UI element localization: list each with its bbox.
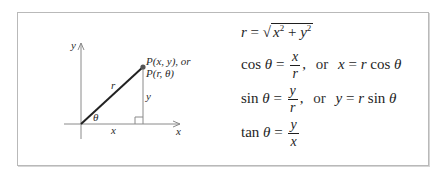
or-text: or xyxy=(316,56,329,72)
horizontal-leg-label: x xyxy=(110,124,116,136)
exponent: 2 xyxy=(307,23,312,33)
formula-sin: sin θ = y r , or y = r sin θ xyxy=(241,84,396,115)
fraction-y-over-r: y r xyxy=(288,84,298,115)
formula-cos: cos θ = x r , or x = r cos θ xyxy=(241,50,401,81)
radius-line xyxy=(81,67,143,124)
point-p xyxy=(140,64,145,69)
equals: = xyxy=(348,56,356,72)
numerator: x xyxy=(290,50,300,64)
formula-tan: tan θ = y x xyxy=(241,118,301,149)
theta: θ xyxy=(263,124,270,140)
x-term: x xyxy=(273,24,280,40)
denominator: r xyxy=(290,67,300,81)
tan-fn: tan xyxy=(241,124,259,140)
cos-fn: cos xyxy=(370,56,390,72)
y-term: y xyxy=(300,24,307,40)
right-angle-marker xyxy=(135,117,143,124)
r-var: r xyxy=(241,24,247,40)
y-axis-label: y xyxy=(70,39,76,51)
plus: + xyxy=(288,24,296,40)
fraction-x-over-r: x r xyxy=(290,50,300,81)
denominator: x xyxy=(288,135,298,149)
sin-fn: sin xyxy=(368,90,386,106)
theta: θ xyxy=(389,90,396,106)
numerator: y xyxy=(288,84,298,98)
theta: θ xyxy=(262,90,269,106)
vertical-leg-label: y xyxy=(145,90,151,102)
denominator: r xyxy=(288,101,298,115)
x-var: x xyxy=(338,56,345,72)
angle-theta-label: θ xyxy=(93,111,99,123)
equals: = xyxy=(273,90,281,106)
r-var: r xyxy=(358,90,364,106)
equals: = xyxy=(274,124,282,140)
r-var: r xyxy=(361,56,367,72)
or-text: or xyxy=(313,90,326,106)
equals: = xyxy=(276,56,284,72)
sqrt-icon: √ xyxy=(263,24,271,40)
square-root: √x2 + y2 xyxy=(263,23,314,40)
cos-fn: cos xyxy=(241,56,261,72)
polar-conversion-formulas: r = √x2 + y2 cos θ = x r , or x = r cos … xyxy=(241,0,431,171)
theta: θ xyxy=(265,56,272,72)
fraction-y-over-x: y x xyxy=(288,118,298,149)
y-var: y xyxy=(336,90,343,106)
comma: , xyxy=(300,90,304,106)
hypotenuse-label: r xyxy=(111,79,116,91)
point-label-polar: P(r, θ) xyxy=(145,67,174,80)
comma: , xyxy=(302,56,306,72)
radicand: x2 + y2 xyxy=(271,23,313,40)
exponent: 2 xyxy=(280,23,285,33)
x-axis-label: x xyxy=(175,125,181,137)
sin-fn: sin xyxy=(241,90,259,106)
theta: θ xyxy=(394,56,401,72)
equals: = xyxy=(251,24,259,40)
equals: = xyxy=(346,90,354,106)
formula-r: r = √x2 + y2 xyxy=(241,23,313,40)
numerator: y xyxy=(288,118,298,132)
